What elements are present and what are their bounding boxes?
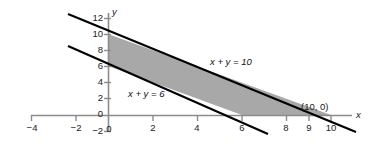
x-tick-label-minus-4: −4 [24, 123, 40, 133]
line-label-lower-text: x + y = 6 [128, 88, 164, 99]
y-tick-label-4: 4 [89, 77, 103, 87]
x-tick-label-0: 0 [103, 124, 115, 134]
line-label-lower: x + y = 6 [128, 88, 164, 99]
x-tick-label-10: 10 [324, 123, 338, 133]
x-tick-label-8: 8 [279, 123, 293, 133]
vertex-point-label: (10, 0) [301, 102, 328, 112]
line-label-upper-text: x + y = 10 [210, 56, 252, 67]
line-x-plus-y-equals-10 [68, 14, 356, 132]
y-tick-label-0: 0 [89, 109, 103, 119]
y-axis-label: y [112, 7, 117, 17]
x-tick-label-9: 9 [302, 123, 316, 133]
x-axis-label: x [356, 110, 361, 120]
y-tick-label-6: 6 [89, 61, 103, 71]
x-tick-label-2: 2 [146, 123, 160, 133]
y-tick-label-10: 10 [89, 29, 103, 39]
y-tick-label-2: 2 [89, 93, 103, 103]
x-tick-label-4: 4 [190, 123, 204, 133]
y-tick-label-12: 12 [89, 13, 103, 23]
y-tick-label-8: 8 [89, 45, 103, 55]
graph-figure: 12 10 8 6 4 2 0 −2 y −4 −2 0 2 4 6 8 9 1… [0, 0, 371, 149]
line-label-upper: x + y = 10 [210, 56, 252, 67]
x-tick-label-minus-2: −2 [68, 123, 84, 133]
x-tick-label-6: 6 [235, 123, 249, 133]
y-tick-label-minus-2: −2 [87, 126, 103, 136]
shaded-region [108, 34, 331, 115]
